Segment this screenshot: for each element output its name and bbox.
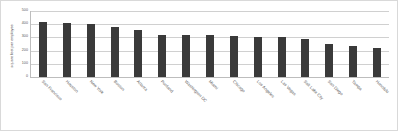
y-axis-tick: 0 xyxy=(26,75,28,79)
bar-slot xyxy=(198,11,222,77)
y-axis-tick: 500 xyxy=(22,9,28,13)
bar xyxy=(158,35,166,78)
y-axis-tick-labels: 5004003002001000 xyxy=(15,11,30,77)
x-axis-tick: Portland xyxy=(160,80,174,94)
x-axis-tick-slot: New York xyxy=(79,78,103,131)
bar xyxy=(349,46,357,77)
x-axis-tick-slot: Chicago xyxy=(222,78,246,131)
bar-series xyxy=(31,11,389,77)
x-axis-tick: Atlanta xyxy=(136,80,148,92)
bar xyxy=(278,37,286,77)
bar xyxy=(63,23,71,77)
x-axis-tick: New York xyxy=(88,80,103,95)
bar-slot xyxy=(126,11,150,77)
x-axis-tick: Honolulu xyxy=(375,80,390,95)
x-axis-tick-slot: San Francisco xyxy=(31,78,55,131)
bar xyxy=(373,48,381,77)
bar-slot xyxy=(222,11,246,77)
x-axis-tick: Tampa xyxy=(351,80,363,92)
bar-slot xyxy=(317,11,341,77)
bar-slot xyxy=(293,11,317,77)
bar-slot xyxy=(270,11,294,77)
x-axis-tick-slot: Las Vegas xyxy=(270,78,294,131)
x-axis-tick: Chicago xyxy=(232,80,246,94)
x-axis-tick-slot: San Diego xyxy=(317,78,341,131)
bar xyxy=(206,35,214,77)
plot-area xyxy=(31,11,389,77)
x-axis-tick-slot: Miami xyxy=(198,78,222,131)
bar xyxy=(182,35,190,77)
x-axis-tick: Houston xyxy=(65,80,79,94)
bar-slot xyxy=(365,11,389,77)
bar xyxy=(111,27,119,77)
x-axis-tick-slot: Portland xyxy=(150,78,174,131)
y-axis-tick: 200 xyxy=(22,49,28,53)
x-axis-tick-slot: Houston xyxy=(55,78,79,131)
bar-slot xyxy=(79,11,103,77)
bar xyxy=(301,39,309,77)
bar-slot xyxy=(246,11,270,77)
bar xyxy=(39,22,47,77)
x-axis-tick-labels: San FranciscoHoustonNew YorkBostonAtlant… xyxy=(31,78,389,131)
x-axis-tick-slot: Los Angeles xyxy=(246,78,270,131)
x-axis-tick: Boston xyxy=(112,80,124,92)
bar-slot xyxy=(31,11,55,77)
x-axis-tick-slot: Tampa xyxy=(341,78,365,131)
x-axis-tick-slot: Washington DC xyxy=(174,78,198,131)
bar-slot xyxy=(55,11,79,77)
y-axis-tick: 300 xyxy=(22,36,28,40)
bar-slot xyxy=(174,11,198,77)
x-axis-tick-slot: Salt Lake City xyxy=(293,78,317,131)
bar xyxy=(325,44,333,77)
bar-slot xyxy=(150,11,174,77)
bar xyxy=(230,36,238,77)
x-axis-tick-slot: Honolulu xyxy=(365,78,389,131)
bar xyxy=(254,37,262,77)
bar-slot xyxy=(103,11,127,77)
bar xyxy=(134,30,142,77)
bar-chart-figure: square feet per employee 500400300200100… xyxy=(0,0,398,131)
y-axis-tick: 100 xyxy=(22,62,28,66)
bar-slot xyxy=(341,11,365,77)
x-axis-tick: Miami xyxy=(208,80,219,91)
x-axis-tick-slot: Boston xyxy=(103,78,127,131)
x-axis-tick-slot: Atlanta xyxy=(126,78,150,131)
y-axis-tick: 400 xyxy=(22,22,28,26)
bar xyxy=(87,24,95,77)
